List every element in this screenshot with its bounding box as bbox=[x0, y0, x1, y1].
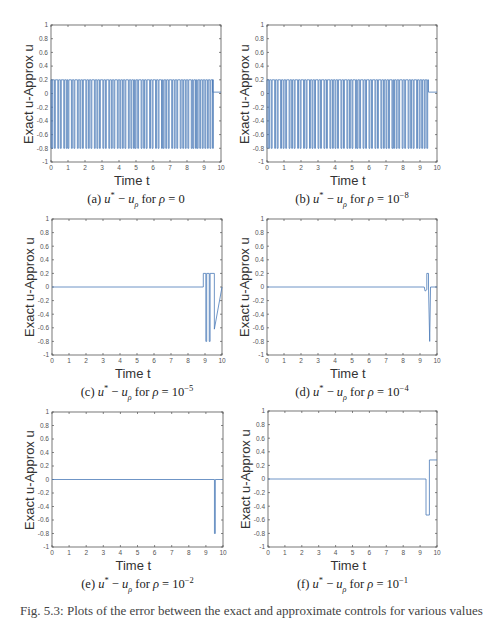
y-tick-label: 1 bbox=[261, 407, 265, 414]
y-tick-label: 0 bbox=[261, 475, 265, 482]
x-tick-label: 4 bbox=[334, 549, 338, 556]
x-tick-label: 7 bbox=[384, 549, 388, 556]
y-tick-label: -0.2 bbox=[254, 489, 266, 496]
x-tick-label: 5 bbox=[351, 549, 355, 556]
y-tick-label: 0.6 bbox=[256, 435, 265, 442]
y-tick-label: -0.4 bbox=[254, 503, 266, 510]
y-tick-label: -0.6 bbox=[254, 516, 266, 523]
data-series-line bbox=[268, 460, 437, 515]
subfigure-caption: (f) u* − uρ for ρ = 10−1 bbox=[293, 575, 413, 594]
x-tick-label: 9 bbox=[418, 549, 422, 556]
x-tick-label: 3 bbox=[317, 549, 321, 556]
y-axis-label: Exact u-Approx u bbox=[238, 429, 253, 529]
x-tick-label: 2 bbox=[300, 549, 304, 556]
x-tick-label: 8 bbox=[401, 549, 405, 556]
y-tick-label: 0.4 bbox=[256, 448, 265, 455]
y-tick-label: 0.2 bbox=[256, 462, 265, 469]
x-axis-label: Time t bbox=[331, 558, 367, 573]
figure-caption-text: Fig. 5.3: Plots of the error between the… bbox=[20, 603, 483, 619]
x-tick-label: 1 bbox=[283, 549, 287, 556]
y-tick-label: 0.8 bbox=[256, 421, 265, 428]
x-tick-label: 10 bbox=[433, 549, 441, 556]
x-tick-label: 6 bbox=[368, 549, 372, 556]
y-tick-label: -0.8 bbox=[254, 530, 266, 537]
y-tick-label: -1 bbox=[259, 543, 265, 550]
x-tick-label: 0 bbox=[266, 549, 270, 556]
